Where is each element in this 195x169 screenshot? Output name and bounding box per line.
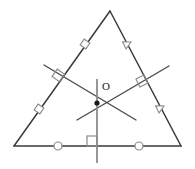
side-congruence-marks <box>34 38 166 150</box>
geometry-figure: O <box>0 0 195 169</box>
geometry-canvas <box>0 0 195 169</box>
right-angle-mark-base <box>87 136 97 146</box>
right-angle-marks <box>52 69 148 146</box>
right-side-lower-triangle-mark <box>156 102 166 112</box>
base-left-circle-mark <box>54 142 62 150</box>
circumcenter-point <box>94 100 99 105</box>
base-right-circle-mark <box>135 142 143 150</box>
circumcenter-label: O <box>102 81 110 92</box>
right-side-upper-triangle-mark <box>123 38 133 48</box>
